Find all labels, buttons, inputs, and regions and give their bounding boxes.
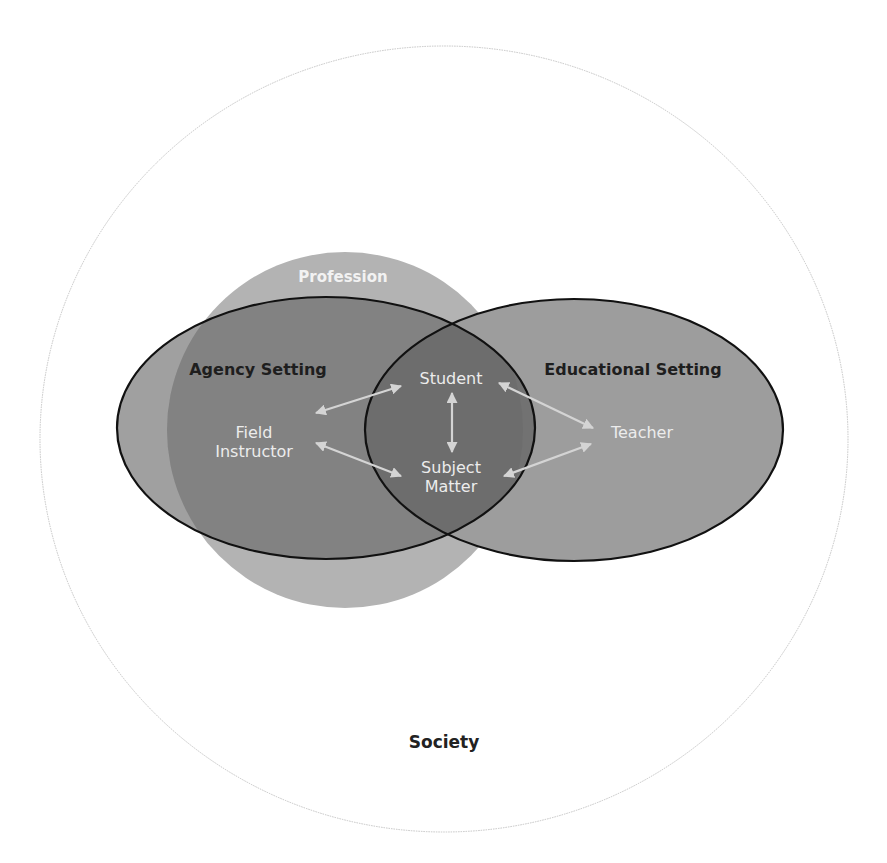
diagram-canvas: Profession Agency Setting Educational Se…	[0, 0, 887, 863]
subject-matter-label-line1: Subject	[421, 458, 481, 477]
profession-label: Profession	[298, 268, 387, 286]
student-label: Student	[420, 369, 483, 388]
teacher-label: Teacher	[610, 423, 673, 442]
society-label: Society	[409, 732, 480, 752]
field-instructor-label-line2: Instructor	[215, 442, 293, 461]
educational-setting-label: Educational Setting	[544, 360, 721, 379]
agency-setting-label: Agency Setting	[189, 360, 327, 379]
field-instructor-label-line1: Field	[236, 423, 273, 442]
subject-matter-label-line2: Matter	[425, 477, 478, 496]
